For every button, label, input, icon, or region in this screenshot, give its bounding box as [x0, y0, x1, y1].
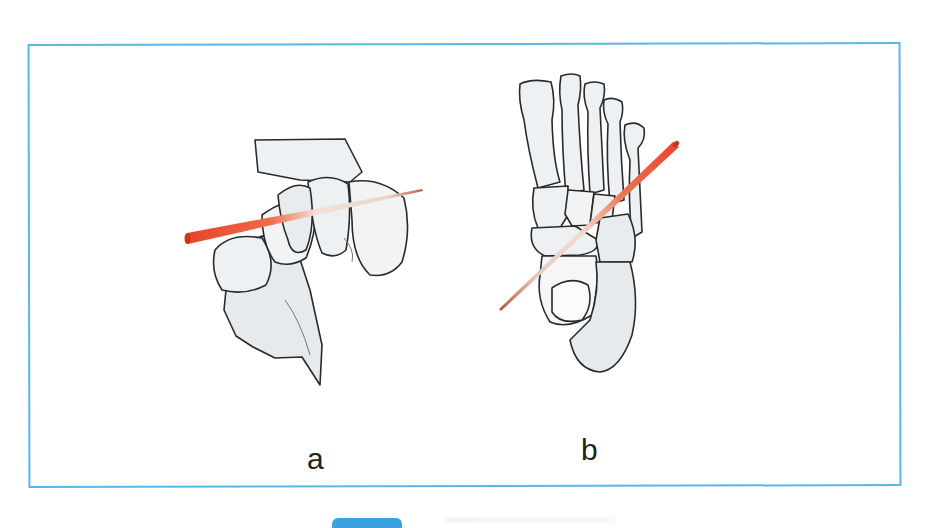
footer-caption-cutoff	[445, 517, 615, 523]
cuboid	[214, 237, 272, 293]
metatarsal-2	[560, 74, 584, 195]
panel-label-b: b	[581, 433, 598, 467]
medial-cuneiform-b	[533, 186, 568, 228]
metatarsal-1	[520, 80, 561, 188]
footer-tab	[332, 518, 402, 528]
cuneiform-intermediate	[308, 177, 350, 255]
panel-a-bones	[214, 139, 408, 385]
talus-body	[255, 139, 362, 182]
guide-wire-a-tip	[185, 233, 191, 244]
metatarsal-4	[604, 98, 625, 204]
panel-b-bones	[520, 74, 645, 372]
talus-head	[552, 281, 590, 322]
cuboid-b	[596, 214, 635, 262]
panel-label-a: a	[307, 442, 324, 476]
metatarsal-3	[584, 82, 605, 194]
